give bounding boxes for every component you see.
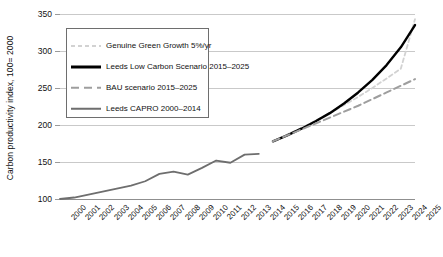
legend-swatch-icon	[71, 41, 101, 51]
series-line	[273, 79, 415, 141]
legend-swatch-icon	[71, 104, 101, 114]
series-line	[60, 154, 259, 199]
legend-item: Leeds Low Carbon Scenario 2015–2025	[71, 56, 204, 77]
legend-item: Leeds CAPRO 2000–2014	[71, 98, 204, 119]
legend-label: Leeds Low Carbon Scenario 2015–2025	[106, 62, 249, 71]
series-line	[273, 19, 415, 141]
legend-label: Genuine Green Growth 5%/yr	[106, 41, 211, 50]
legend-item: BAU scenario 2015–2025	[71, 77, 204, 98]
legend-item: Genuine Green Growth 5%/yr	[71, 35, 204, 56]
series-line	[273, 25, 415, 141]
chart-legend: Genuine Green Growth 5%/yrLeeds Low Carb…	[66, 28, 209, 118]
legend-label: BAU scenario 2015–2025	[106, 83, 197, 92]
legend-swatch-icon	[71, 62, 101, 72]
legend-swatch-icon	[71, 83, 101, 93]
legend-label: Leeds CAPRO 2000–2014	[106, 104, 201, 113]
